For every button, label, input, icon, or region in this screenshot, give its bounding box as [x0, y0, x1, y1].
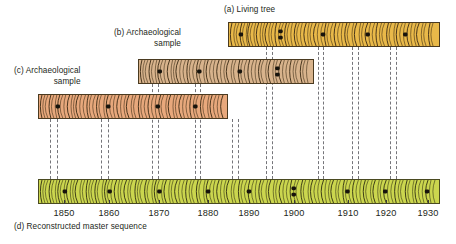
- growth-ring: [417, 23, 420, 46]
- growth-ring: [354, 23, 356, 46]
- growth-ring: [76, 95, 79, 118]
- growth-ring: [164, 180, 166, 203]
- growth-ring: [83, 95, 85, 118]
- growth-ring: [166, 95, 168, 118]
- growth-ring: [210, 95, 212, 118]
- growth-ring: [91, 180, 94, 203]
- growth-ring: [224, 180, 226, 203]
- growth-ring: [287, 23, 289, 46]
- growth-ring: [151, 95, 153, 118]
- growth-ring: [238, 180, 240, 203]
- growth-ring: [258, 60, 260, 83]
- growth-ring: [429, 23, 431, 46]
- growth-ring: [89, 180, 91, 203]
- growth-ring: [433, 180, 435, 203]
- growth-ring: [175, 95, 177, 118]
- growth-ring: [234, 23, 236, 46]
- growth-ring: [387, 23, 389, 46]
- growth-ring: [248, 60, 250, 83]
- growth-ring: [104, 95, 106, 118]
- growth-ring: [285, 23, 287, 46]
- growth-ring: [213, 180, 215, 203]
- growth-ring: [233, 60, 235, 83]
- growth-ring: [296, 180, 299, 203]
- growth-ring: [151, 60, 153, 83]
- growth-ring: [318, 180, 320, 203]
- growth-ring: [213, 60, 215, 83]
- growth-ring: [220, 60, 222, 83]
- axis-label-1860: 1860: [99, 208, 120, 218]
- growth-ring: [275, 23, 277, 46]
- growth-ring: [154, 180, 156, 203]
- axis-label-1870: 1870: [149, 208, 170, 218]
- growth-ring: [114, 180, 116, 203]
- growth-ring: [193, 60, 196, 83]
- growth-ring: [241, 180, 243, 203]
- growth-ring: [75, 180, 78, 203]
- growth-ring: [269, 23, 271, 46]
- growth-ring: [362, 23, 364, 46]
- growth-ring: [387, 180, 389, 203]
- growth-ring: [273, 180, 275, 203]
- growth-ring: [224, 60, 226, 83]
- growth-ring: [135, 180, 137, 203]
- growth-ring: [178, 180, 180, 203]
- growth-ring: [89, 95, 91, 118]
- growth-ring: [147, 180, 149, 203]
- signature-ring-marker: [291, 193, 296, 197]
- growth-ring: [268, 60, 270, 83]
- caption-c-line1: (c) Archaeological: [14, 66, 81, 75]
- growth-ring: [80, 95, 82, 118]
- growth-ring: [169, 180, 171, 203]
- growth-ring: [252, 180, 254, 203]
- growth-ring: [113, 95, 115, 118]
- signature-ring-marker: [291, 186, 296, 190]
- growth-ring: [180, 60, 182, 83]
- growth-ring: [282, 60, 284, 83]
- growth-ring: [297, 23, 300, 46]
- growth-ring: [303, 180, 305, 203]
- growth-ring: [411, 23, 413, 46]
- growth-ring: [356, 180, 358, 203]
- growth-ring: [55, 180, 57, 203]
- tie-1922-right: [396, 47, 397, 179]
- growth-ring: [255, 60, 257, 83]
- growth-ring: [164, 60, 166, 83]
- growth-ring: [71, 95, 73, 118]
- growth-ring: [173, 60, 175, 83]
- growth-ring: [268, 180, 270, 203]
- growth-ring: [97, 95, 99, 118]
- growth-ring: [176, 60, 179, 83]
- signature-ring-marker: [275, 66, 280, 70]
- sample-bar-archaeological-sample-b: [138, 59, 314, 84]
- growth-ring: [99, 95, 101, 118]
- signature-ring-marker: [107, 190, 112, 194]
- signature-ring-marker: [275, 73, 280, 77]
- growth-ring: [373, 180, 375, 203]
- tie-1910-left: [352, 47, 353, 179]
- growth-ring: [338, 180, 340, 203]
- growth-ring: [261, 60, 264, 83]
- signature-ring-marker: [321, 33, 326, 37]
- sample-bar-reconstructed-master-sequence: [38, 179, 440, 204]
- tie-1860-left: [101, 119, 102, 179]
- growth-ring: [95, 180, 97, 203]
- growth-ring: [203, 95, 205, 118]
- signature-ring-marker: [425, 190, 430, 194]
- signature-ring-marker: [155, 105, 160, 109]
- growth-ring: [82, 180, 84, 203]
- growth-ring: [306, 60, 308, 83]
- caption-archaeological-sample-b: (b) Archaeologicalsample: [114, 28, 181, 49]
- growth-ring: [413, 180, 415, 203]
- growth-ring: [138, 95, 140, 118]
- growth-ring: [352, 23, 354, 46]
- growth-ring: [405, 180, 407, 203]
- growth-ring: [353, 180, 355, 203]
- growth-ring: [376, 23, 378, 46]
- axis-label-1920: 1920: [376, 208, 397, 218]
- growth-ring: [148, 95, 150, 118]
- signature-ring-marker: [365, 33, 370, 37]
- growth-ring: [102, 180, 104, 203]
- axis-label-1930: 1930: [418, 208, 439, 218]
- growth-ring: [331, 180, 334, 203]
